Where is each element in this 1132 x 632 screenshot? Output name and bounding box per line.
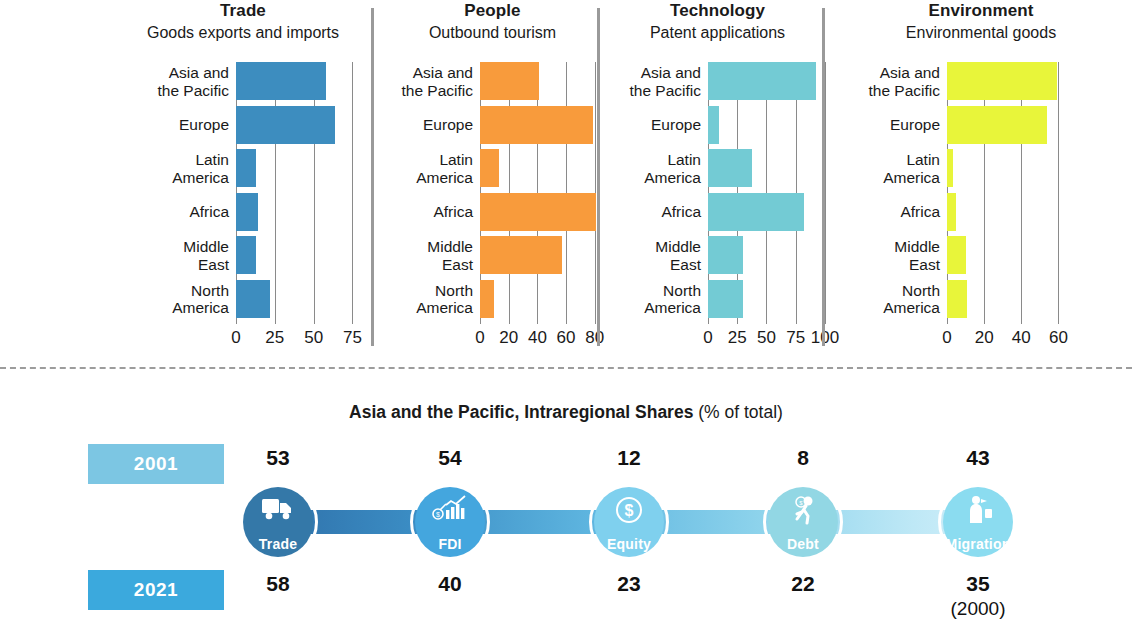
flow-node-debt[interactable]: $Debt — [763, 482, 843, 562]
chart-title: Trade — [0, 0, 380, 21]
plot: Asia andthe PacificEuropeLatinAmericaAfr… — [947, 62, 1077, 324]
axis-tick-label: 80 — [585, 328, 604, 348]
category-label: MiddleEast — [655, 238, 701, 273]
bar — [947, 193, 956, 231]
category-label: NorthAmerica — [644, 281, 701, 316]
category-label: NorthAmerica — [172, 281, 229, 316]
axis-tick-label: 40 — [1012, 328, 1031, 348]
running-man-icon: $ — [763, 495, 843, 525]
flow-title-unit: (% of total) — [698, 402, 783, 422]
flow-node-equity[interactable]: $Equity — [589, 482, 669, 562]
bar-row: Europe — [708, 106, 839, 144]
bar-row: LatinAmerica — [708, 149, 839, 187]
node-label: Migration — [938, 536, 1018, 552]
category-label: LatinAmerica — [172, 151, 229, 186]
category-label: Africa — [189, 203, 229, 221]
category-label: LatinAmerica — [416, 151, 473, 186]
value-2021-equity: 23 — [569, 572, 689, 596]
bar — [236, 149, 256, 187]
bar — [480, 149, 499, 187]
category-label: Europe — [179, 116, 229, 134]
bar-row: MiddleEast — [947, 236, 1077, 274]
value-2021-trade: 58 — [218, 572, 338, 596]
axis-tick-label: 0 — [942, 328, 951, 348]
section-divider — [0, 367, 1132, 369]
bar — [236, 106, 335, 144]
chart-subtitle: Outbound tourism — [380, 22, 605, 43]
truck-icon — [238, 495, 318, 521]
chart-title: Technology — [605, 0, 830, 21]
value-2001-equity: 12 — [569, 446, 689, 470]
axis-tick-label: 0 — [231, 328, 240, 348]
bar — [947, 106, 1047, 144]
category-label: Asia andthe Pacific — [401, 64, 473, 99]
bar — [480, 193, 596, 231]
flow-node-trade[interactable]: Trade — [238, 482, 318, 562]
bar-row: NorthAmerica — [708, 280, 839, 318]
bar — [708, 236, 743, 274]
bar-row: LatinAmerica — [236, 149, 368, 187]
dollar-coin-icon: $ — [589, 495, 669, 525]
x-axis: 020406080 — [480, 328, 612, 354]
flow-node-migration[interactable]: Migration — [938, 482, 1018, 562]
chart-subtitle: Environmental goods — [830, 22, 1132, 43]
axis-tick-label: 0 — [703, 328, 712, 348]
category-label: Asia andthe Pacific — [629, 64, 701, 99]
bar-row: Asia andthe Pacific — [236, 62, 368, 100]
bar — [708, 280, 743, 318]
category-label: Asia andthe Pacific — [868, 64, 940, 99]
chart-subtitle: Goods exports and imports — [0, 22, 380, 43]
flow-node-fdi[interactable]: $FDI — [410, 482, 490, 562]
x-axis: 0204060 — [947, 328, 1077, 354]
axis-tick-label: 60 — [1049, 328, 1068, 348]
year-chip-2021: 2021 — [88, 570, 224, 610]
bar — [480, 106, 593, 144]
value-note-migration: (2000) — [918, 598, 1038, 620]
axis-tick-label: 50 — [757, 328, 776, 348]
bar — [236, 280, 270, 318]
person-bag-icon — [938, 495, 1018, 525]
year-chip-2001-label: 2001 — [134, 453, 178, 475]
bar-rows: Asia andthe PacificEuropeLatinAmericaAfr… — [947, 62, 1077, 324]
axis-tick-label: 20 — [975, 328, 994, 348]
category-label: Africa — [433, 203, 473, 221]
bar-row: MiddleEast — [708, 236, 839, 274]
chart-panel-technology: TechnologyPatent applicationsAsia andthe… — [605, 0, 830, 362]
bar-row: Asia andthe Pacific — [947, 62, 1077, 100]
category-label: NorthAmerica — [883, 281, 940, 316]
bar — [480, 236, 562, 274]
bar — [236, 236, 256, 274]
category-label: NorthAmerica — [416, 281, 473, 316]
bar-rows: Asia andthe PacificEuropeLatinAmericaAfr… — [480, 62, 612, 324]
x-axis: 0255075100 — [708, 328, 839, 354]
category-label: Asia andthe Pacific — [157, 64, 229, 99]
plot-area: Asia andthe PacificEuropeLatinAmericaAfr… — [830, 62, 1132, 362]
chart-title: Environment — [830, 0, 1132, 21]
category-label: LatinAmerica — [883, 151, 940, 186]
bar — [708, 149, 752, 187]
bar-chart-icon: $ — [410, 495, 490, 521]
flow-title-main: Asia and the Pacific, Intraregional Shar… — [349, 402, 698, 422]
axis-tick-label: 40 — [528, 328, 547, 348]
plot-area: Asia andthe PacificEuropeLatinAmericaAfr… — [605, 62, 830, 362]
bar-row: Africa — [236, 193, 368, 231]
bar-row: NorthAmerica — [480, 280, 612, 318]
category-label: MiddleEast — [183, 238, 229, 273]
bar — [236, 193, 258, 231]
bar-row: LatinAmerica — [947, 149, 1077, 187]
chart-title: People — [380, 0, 605, 21]
bar-row: MiddleEast — [236, 236, 368, 274]
bar-row: Africa — [947, 193, 1077, 231]
node-label: FDI — [410, 536, 490, 552]
plot-area: Asia andthe PacificEuropeLatinAmericaAfr… — [380, 62, 605, 362]
bar-row: MiddleEast — [480, 236, 612, 274]
bar-row: Africa — [708, 193, 839, 231]
bar-rows: Asia andthe PacificEuropeLatinAmericaAfr… — [708, 62, 839, 324]
value-2021-fdi: 40 — [390, 572, 510, 596]
bar — [708, 62, 816, 100]
svg-text:$: $ — [625, 502, 634, 519]
bar — [947, 149, 953, 187]
bar-row: Asia andthe Pacific — [480, 62, 612, 100]
category-label: MiddleEast — [894, 238, 940, 273]
plot: Asia andthe PacificEuropeLatinAmericaAfr… — [480, 62, 612, 324]
